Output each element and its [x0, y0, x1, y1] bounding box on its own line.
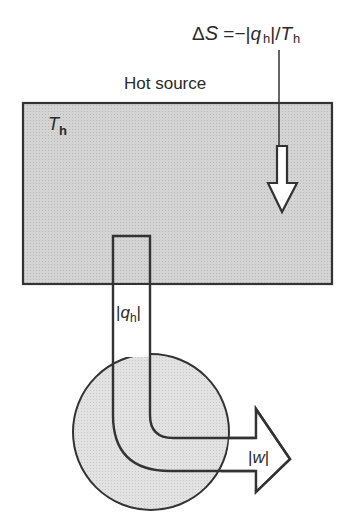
- heat-flow-label: |qh|: [116, 303, 141, 325]
- entropy-change-label: ΔS =−|qh|/Th: [192, 22, 300, 46]
- hot-source-title: Hot source: [124, 74, 206, 93]
- work-label: |w|: [248, 448, 269, 467]
- heat-engine-diagram: ΔS =−|qh|/Th Hot source Th |qh| |w|: [0, 0, 358, 526]
